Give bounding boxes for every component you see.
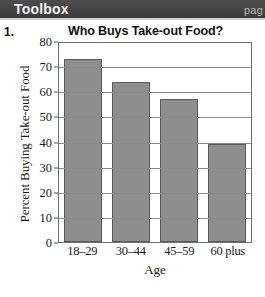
y-tick-label: 50 xyxy=(40,111,53,124)
bar xyxy=(64,59,102,242)
x-tick-label: 60 plus xyxy=(205,244,251,259)
y-tick-mark xyxy=(54,117,58,118)
y-tick-mark xyxy=(54,142,58,143)
x-tick-label: 45‒59 xyxy=(156,244,202,259)
toolbox-header-bar: Toolbox pag xyxy=(0,0,265,20)
header-title: Toolbox xyxy=(14,1,69,17)
plot-area xyxy=(58,42,252,243)
y-tick-label: 20 xyxy=(40,187,53,200)
y-tick-mark xyxy=(54,167,58,168)
y-tick-mark xyxy=(54,92,58,93)
y-axis-tick-labels: 01020304050607080 xyxy=(26,40,54,243)
y-tick-label: 40 xyxy=(40,136,53,149)
gridline xyxy=(59,92,251,93)
y-tick-label: 0 xyxy=(46,237,52,250)
x-tick-label: 30‒44 xyxy=(108,244,154,259)
x-axis-tick-labels: 18‒2930‒4445‒5960 plus xyxy=(58,244,252,259)
y-tick-label: 60 xyxy=(40,86,53,99)
x-tick-label: 18‒29 xyxy=(59,244,105,259)
header-page-label: pag xyxy=(244,4,263,16)
bar-chart: Percent Buying Take-out Food 01020304050… xyxy=(0,40,265,297)
y-tick-mark xyxy=(54,192,58,193)
y-tick-mark xyxy=(54,217,58,218)
gridline xyxy=(59,67,251,68)
y-tick-mark xyxy=(54,243,58,244)
bar xyxy=(160,99,198,242)
y-tick-label: 10 xyxy=(40,212,53,225)
gridline xyxy=(59,218,251,219)
y-tick-mark xyxy=(54,67,58,68)
gridline xyxy=(59,193,251,194)
gridline xyxy=(59,168,251,169)
x-axis-label: Age xyxy=(58,262,252,278)
y-tick-mark xyxy=(54,42,58,43)
y-tick-label: 70 xyxy=(40,61,53,74)
gridline xyxy=(59,117,251,118)
gridline xyxy=(59,143,251,144)
y-tick-label: 30 xyxy=(40,161,53,174)
y-tick-label: 80 xyxy=(40,36,53,49)
